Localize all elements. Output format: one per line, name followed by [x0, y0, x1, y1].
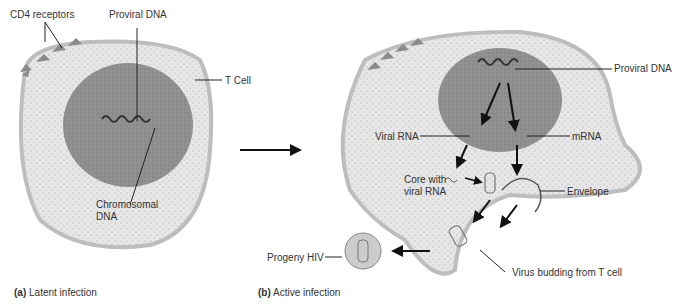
latent-t-cell [20, 22, 222, 247]
label-core-2: viral RNA [404, 186, 446, 197]
label-proviral-dna-a: Proviral DNA [109, 9, 167, 20]
label-proviral-dna-b: Proviral DNA [614, 63, 672, 74]
label-progeny-hiv: Progeny HIV [267, 252, 324, 263]
label-chromosomal-1: Chromosomal [96, 199, 158, 210]
label-t-cell: T Cell [225, 75, 251, 86]
label-viral-rna: Viral RNA [375, 131, 419, 142]
label-mrna: mRNA [572, 131, 601, 142]
label-chromosomal-2: DNA [96, 211, 117, 222]
caption-b: (b) Active infection [258, 287, 340, 298]
label-envelope: Envelope [567, 186, 609, 197]
caption-a: (a) Latent infection [14, 287, 97, 298]
active-t-cell [343, 32, 640, 274]
label-virus-budding: Virus budding from T cell [512, 267, 622, 278]
diagram-canvas [0, 0, 681, 307]
label-core-1: Core with [404, 174, 446, 185]
nucleus [63, 63, 193, 187]
progeny-hiv-icon [345, 233, 381, 269]
label-cd4-receptors: CD4 receptors [10, 9, 74, 20]
